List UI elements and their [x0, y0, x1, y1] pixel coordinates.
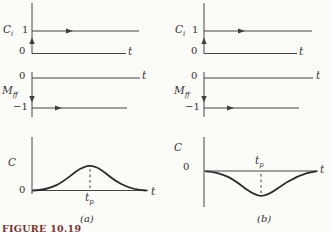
ci-t-label-b: t [299, 46, 303, 57]
ci-plot-b [201, 3, 312, 54]
mff-base-a: M [2, 84, 13, 96]
ci-base-a: C [3, 23, 11, 35]
panel-label-a: (a) [80, 214, 94, 224]
c-tick-zero-a: 0 [19, 185, 25, 195]
c-plot-a [32, 137, 148, 194]
mff-subscript-a: ff [13, 91, 18, 99]
ci-base-b: C [175, 23, 183, 35]
c-axis-label-a: C [8, 157, 16, 168]
c-axis-label-b: C [174, 142, 182, 153]
peak-time-label-a: tp [85, 192, 94, 203]
figure-caption: FIGURE 10.19 [2, 224, 81, 232]
figure-plot-canvas [0, 0, 332, 232]
c-tick-zero-b: 0 [183, 162, 189, 172]
ci-axis-label-a: Ci [3, 24, 13, 35]
mff-t-label-a: t [142, 70, 146, 81]
c-t-label-a: t [151, 186, 155, 197]
mff-step-down-arrow-a [29, 96, 34, 103]
mff-tick-zero-b: 0 [191, 71, 197, 81]
c-t-label-b: t [320, 164, 324, 175]
mff-plot-b [201, 72, 313, 117]
ci-plot-a [29, 3, 139, 54]
mff-axis-label-b: Mff [174, 85, 190, 96]
mff-tick-zero-a: 0 [19, 71, 25, 81]
ci-tick-zero-a: 0 [19, 46, 25, 56]
mff-base-b: M [174, 84, 185, 96]
mff-plot-a [29, 72, 140, 117]
ci-axis-label-b: Ci [175, 24, 185, 35]
peak-time-label-b: tp [255, 155, 264, 166]
ci-tick-one-b: 1 [192, 25, 198, 35]
tp-subscript-a: p [89, 198, 93, 206]
mff-t-label-b: t [316, 70, 320, 81]
ci-step-up-arrow-b [201, 38, 206, 45]
mff-tick-minus-one-a: −1 [13, 102, 28, 112]
mff-subscript-b: ff [185, 91, 190, 99]
ci-subscript-a: i [11, 30, 13, 38]
ci-tick-one-a: 1 [22, 25, 28, 35]
ci-forward-arrow-b [238, 28, 245, 33]
figure-10-19: Ci 1 0 t 0 Mff −1 t C 0 t tp (a) Ci 1 0 … [0, 0, 332, 232]
ci-subscript-b: i [183, 30, 185, 38]
tp-subscript-b: p [259, 161, 263, 169]
mff-forward-arrow-b [227, 105, 234, 110]
mff-forward-arrow-a [55, 105, 62, 110]
ci-t-label-a: t [128, 46, 132, 57]
mff-tick-minus-one-b: −1 [185, 102, 200, 112]
panel-label-b: (b) [257, 214, 271, 224]
ci-tick-zero-b: 0 [191, 46, 197, 56]
mff-axis-label-a: Mff [2, 85, 18, 96]
ci-forward-arrow-a [66, 28, 73, 33]
ci-step-up-arrow-a [29, 38, 34, 45]
mff-step-down-arrow-b [201, 96, 206, 103]
c-plot-b [204, 137, 318, 207]
